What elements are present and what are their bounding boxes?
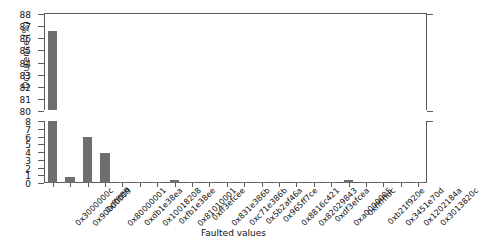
y-tick-label: 84 xyxy=(20,59,31,69)
lower-panel-left-spine xyxy=(44,121,45,183)
bar xyxy=(48,121,58,183)
x-axis-title: Faulted values xyxy=(0,228,467,238)
y-tick-label: 83 xyxy=(20,71,31,81)
y-tick-upper-right xyxy=(427,111,433,112)
y-tick-lower: 7 xyxy=(38,129,44,130)
bar xyxy=(48,31,58,110)
chart-panel-upper: 808182838485868788 xyxy=(44,13,427,110)
y-tick-lower: 8 xyxy=(38,121,44,122)
y-tick-lower-right xyxy=(427,121,433,122)
y-tick-lower: 5 xyxy=(38,144,44,145)
y-tick-lower: 4 xyxy=(38,152,44,153)
y-tick-lower: 3 xyxy=(38,160,44,161)
y-tick-label: 87 xyxy=(20,22,31,32)
y-tick-lower: 1 xyxy=(38,175,44,176)
y-tick-label: 81 xyxy=(20,95,31,105)
upper-panel-left-spine xyxy=(44,14,45,110)
y-tick-label: 80 xyxy=(20,107,31,117)
y-tick-label: 86 xyxy=(20,34,31,44)
y-tick-lower: 2 xyxy=(38,168,44,169)
y-tick-label: 82 xyxy=(20,83,31,93)
y-tick-upper: 80 xyxy=(38,111,44,112)
lower-panel-right-spine xyxy=(426,121,427,183)
y-tick-upper: 86 xyxy=(38,38,44,39)
bar xyxy=(83,137,93,183)
y-tick-upper: 85 xyxy=(38,50,44,51)
y-tick-lower: 6 xyxy=(38,137,44,138)
y-tick-upper: 87 xyxy=(38,26,44,27)
y-tick-label: 88 xyxy=(20,10,31,20)
y-tick-lower: 0 xyxy=(38,183,44,184)
bar xyxy=(100,153,110,183)
upper-panel-right-spine xyxy=(426,14,427,110)
y-tick-upper: 83 xyxy=(38,75,44,76)
y-tick-label: 8 xyxy=(25,117,31,127)
y-tick-upper: 88 xyxy=(38,14,44,15)
y-tick-label: 85 xyxy=(20,46,31,56)
y-tick-upper: 82 xyxy=(38,87,44,88)
chart-panel-lower: 012345678 xyxy=(44,121,427,183)
y-tick-upper-right xyxy=(427,14,433,15)
y-tick-upper: 81 xyxy=(38,99,44,100)
y-tick-upper: 84 xyxy=(38,63,44,64)
